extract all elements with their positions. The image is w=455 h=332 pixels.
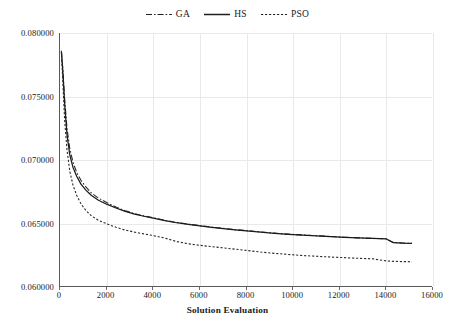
legend-label: PSO: [291, 10, 309, 19]
y-tick-label: 0.065000: [0, 220, 54, 229]
chart-legend: GAHSPSO: [0, 6, 455, 22]
x-tick-label: 16000: [421, 291, 443, 300]
y-tick-label: 0.075000: [0, 93, 54, 102]
y-tick-label: 0.070000: [0, 156, 54, 165]
x-tick-label: 10000: [281, 291, 303, 300]
legend-item-pso[interactable]: PSO: [261, 10, 309, 19]
legend-swatch-solid: [204, 10, 230, 19]
y-axis-ticks: 0.0600000.0650000.0700000.0750000.080000: [0, 33, 455, 287]
chart-figure: GAHSPSO 0.0600000.0650000.0700000.075000…: [0, 0, 455, 332]
x-axis-title: Solution Evaluation: [0, 305, 455, 315]
y-tick-label: 0.080000: [0, 29, 54, 38]
x-tick-label: 12000: [328, 291, 350, 300]
x-axis-ticks: 0200040006000800010000120001400016000: [0, 289, 455, 303]
legend-label: HS: [234, 10, 247, 19]
legend-item-ga[interactable]: GA: [146, 10, 190, 19]
x-tick-label: 0: [57, 291, 61, 300]
x-tick-label: 6000: [190, 291, 208, 300]
legend-item-hs[interactable]: HS: [204, 10, 247, 19]
x-tick-label: 14000: [374, 291, 396, 300]
legend-swatch-dash-dot: [146, 10, 172, 19]
legend-swatch-dotted: [261, 10, 287, 19]
legend-label: GA: [176, 10, 190, 19]
x-tick-label: 4000: [143, 291, 161, 300]
x-tick-label: 2000: [97, 291, 115, 300]
x-tick-label: 8000: [237, 291, 255, 300]
